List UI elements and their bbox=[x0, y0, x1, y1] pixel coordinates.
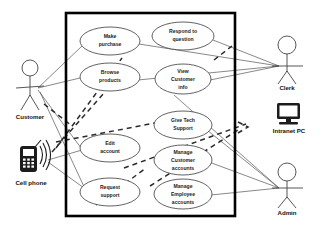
actor-admin[interactable]: Admin bbox=[272, 163, 303, 216]
actor-head-icon bbox=[278, 163, 296, 181]
use-case-label-line: Browse bbox=[101, 69, 120, 75]
use-case-label-line: Manage bbox=[174, 149, 193, 155]
use-case-browse-products[interactable]: Browse products bbox=[80, 63, 140, 91]
use-case-label-line: account bbox=[100, 148, 120, 154]
actor-label-customer: Customer bbox=[16, 113, 45, 120]
actor-label-cell-phone: Cell phone bbox=[15, 179, 47, 186]
use-case-manage-customer-accounts[interactable]: Manage Customer accounts bbox=[154, 145, 212, 175]
actor-head-icon bbox=[278, 36, 296, 54]
use-case-label-line: View bbox=[177, 68, 189, 74]
monitor-screen-icon bbox=[280, 106, 298, 117]
association-clerk-view-customer-info bbox=[210, 66, 279, 80]
use-case-diagram: Make purchase Browse products Edit accou… bbox=[0, 0, 322, 234]
use-case-label-line: support bbox=[101, 192, 120, 198]
phone-screen-icon bbox=[23, 149, 34, 156]
arrowhead-intranet-pc bbox=[238, 122, 248, 133]
association-admin-manage-employee-accounts bbox=[211, 188, 279, 195]
use-case-label-line: Make bbox=[104, 33, 117, 39]
use-case-manage-employee-accounts[interactable]: Manage Employee accounts bbox=[154, 179, 212, 209]
actor-leg-right-icon bbox=[287, 197, 296, 208]
use-case-label-line: Customer bbox=[171, 157, 195, 163]
actor-leg-left-icon bbox=[278, 71, 287, 84]
actor-customer[interactable]: Customer bbox=[16, 60, 45, 120]
actor-label-intranet-pc: Intranet PC bbox=[273, 127, 306, 134]
use-case-give-tech-support[interactable]: Give Tech Support bbox=[154, 111, 212, 139]
use-case-label-line: Employee bbox=[171, 191, 195, 197]
use-case-label-line: info bbox=[178, 84, 187, 90]
actor-cell-phone[interactable]: Cell phone bbox=[15, 140, 50, 186]
dashed-arrowheads bbox=[238, 122, 248, 133]
association-customer-cellphone-link bbox=[44, 104, 72, 126]
use-case-label-line: products bbox=[99, 77, 121, 83]
association-admin-give-tech-support bbox=[207, 130, 279, 188]
use-case-label-line: Support bbox=[173, 125, 193, 131]
association-customer-make-purchase bbox=[38, 46, 82, 88]
actor-intranet-pc[interactable]: Intranet PC bbox=[273, 103, 306, 134]
use-case-label-line: Request bbox=[100, 184, 120, 190]
actor-head-icon bbox=[22, 60, 38, 76]
signal-waves-icon bbox=[40, 140, 51, 170]
actor-leg-left-icon bbox=[21, 95, 30, 110]
actor-label-clerk: Clerk bbox=[279, 84, 295, 91]
association-clerk-make-purchase bbox=[139, 44, 279, 66]
use-case-label-line: accounts bbox=[172, 199, 195, 205]
actor-leg-right-icon bbox=[287, 71, 296, 84]
actor-label-admin: Admin bbox=[278, 209, 297, 216]
use-case-label-line: Customer bbox=[171, 76, 195, 82]
use-case-label-line: question bbox=[172, 36, 193, 42]
association-admin-manage-customer-accounts bbox=[209, 162, 279, 188]
use-case-label-line: purchase bbox=[99, 41, 122, 47]
use-case-label-line: Respond to bbox=[169, 28, 197, 34]
use-case-label-line: Manage bbox=[174, 183, 193, 189]
phone-keypad-icon bbox=[23, 159, 34, 168]
monitor-base-icon bbox=[279, 122, 298, 125]
use-case-request-support[interactable]: Request support bbox=[80, 178, 140, 206]
use-case-respond-to-question[interactable]: Respond to question bbox=[152, 22, 214, 50]
use-case-view-customer-info[interactable]: View Customer info bbox=[155, 64, 211, 94]
actor-clerk[interactable]: Clerk bbox=[272, 36, 303, 91]
use-case-label-line: accounts bbox=[172, 165, 195, 171]
association-customer-browse-products bbox=[38, 78, 80, 88]
monitor-stand-icon bbox=[286, 119, 291, 122]
use-case-label-line: Edit bbox=[105, 140, 115, 146]
use-case-edit-account[interactable]: Edit account bbox=[80, 134, 140, 162]
actor-leg-right-icon bbox=[30, 95, 39, 110]
actor-leg-left-icon bbox=[278, 197, 287, 208]
use-case-make-purchase[interactable]: Make purchase bbox=[80, 27, 140, 55]
use-case-label-line: Give Tech bbox=[171, 117, 195, 123]
